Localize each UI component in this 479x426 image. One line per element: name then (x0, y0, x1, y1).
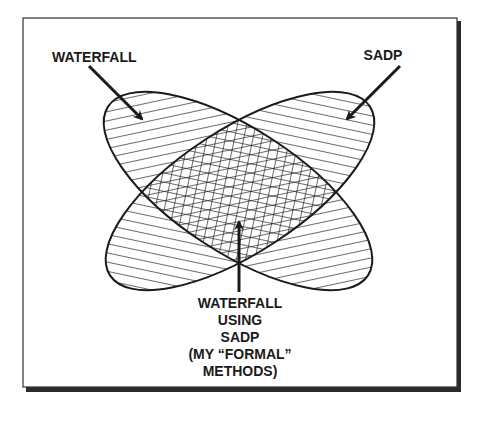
intersection-label-line: WATERFALL (198, 295, 283, 311)
intersection-label-line: METHODS) (203, 363, 278, 379)
venn-diagram: WATERFALL SADP WATERFALL USING SADP (MY … (0, 0, 479, 426)
intersection-label-line: SADP (221, 329, 260, 345)
intersection-label-line: (MY “FORMAL” (188, 346, 291, 362)
intersection-label-line: USING (218, 312, 262, 328)
sadp-label: SADP (364, 47, 403, 63)
waterfall-label: WATERFALL (52, 49, 137, 65)
